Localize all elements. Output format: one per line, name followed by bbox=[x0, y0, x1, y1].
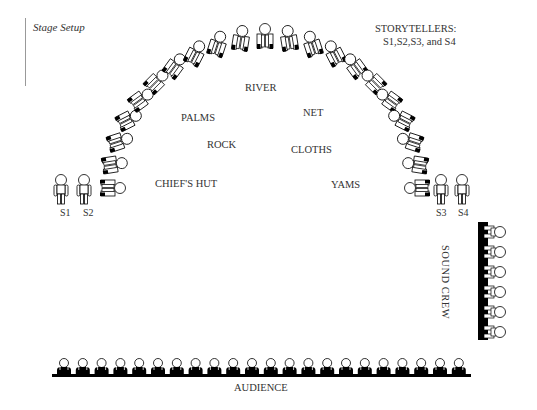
storyteller-s4 bbox=[455, 175, 469, 205]
prop-label: PALMS bbox=[181, 112, 215, 123]
audience-label: AUDIENCE bbox=[234, 382, 288, 393]
prop-label: YAMS bbox=[331, 179, 360, 190]
sound-crew bbox=[478, 222, 506, 340]
audience-member bbox=[57, 359, 71, 375]
chorus-member bbox=[301, 29, 324, 58]
audience-member bbox=[377, 359, 391, 375]
audience-member bbox=[170, 359, 184, 375]
stage-diagram bbox=[0, 0, 537, 410]
audience-member bbox=[245, 359, 259, 375]
storyteller-s3 bbox=[434, 175, 448, 205]
storyteller-label: S1 bbox=[60, 207, 71, 218]
storyteller-s1 bbox=[54, 175, 68, 205]
audience-member bbox=[283, 359, 297, 375]
audience-row bbox=[52, 359, 471, 378]
prop-label: RIVER bbox=[245, 82, 277, 93]
chorus-member bbox=[257, 24, 273, 50]
storyteller-label: S4 bbox=[458, 207, 469, 218]
chorus-member bbox=[183, 38, 209, 68]
prop-label: NET bbox=[303, 107, 323, 118]
audience-member bbox=[339, 359, 353, 375]
audience-member bbox=[320, 359, 334, 375]
storyteller-label: S3 bbox=[436, 207, 447, 218]
chorus-member bbox=[402, 154, 430, 174]
audience-member bbox=[452, 359, 466, 375]
audience-member bbox=[76, 359, 90, 375]
chorus-member bbox=[279, 24, 299, 52]
chorus-member bbox=[321, 38, 347, 68]
audience-member bbox=[395, 359, 409, 375]
audience-member bbox=[414, 359, 428, 375]
audience-member bbox=[189, 359, 203, 375]
audience-member bbox=[151, 359, 165, 375]
chorus-arc bbox=[100, 24, 430, 197]
chorus-member bbox=[206, 29, 229, 58]
chorus-member bbox=[106, 130, 135, 153]
audience-member bbox=[301, 359, 315, 375]
prop-label: CHIEF'S HUT bbox=[155, 178, 217, 189]
audience-member bbox=[113, 359, 127, 375]
audience-member bbox=[433, 359, 447, 375]
chorus-member bbox=[101, 154, 129, 174]
storyteller-s2 bbox=[77, 175, 91, 205]
audience-member bbox=[264, 359, 278, 375]
audience-member bbox=[95, 359, 109, 375]
audience-member bbox=[207, 359, 221, 375]
sound-crew-label: SOUND CREW bbox=[440, 245, 451, 319]
prop-label: CLOTHS bbox=[291, 144, 332, 155]
storyteller-label: S2 bbox=[83, 207, 94, 218]
chorus-member bbox=[231, 24, 251, 52]
chorus-member bbox=[405, 180, 431, 196]
prop-label: ROCK bbox=[207, 139, 236, 150]
audience-member bbox=[226, 359, 240, 375]
chorus-member bbox=[100, 180, 126, 196]
audience-member bbox=[132, 359, 146, 375]
audience-member bbox=[358, 359, 372, 375]
chorus-member bbox=[395, 130, 424, 153]
